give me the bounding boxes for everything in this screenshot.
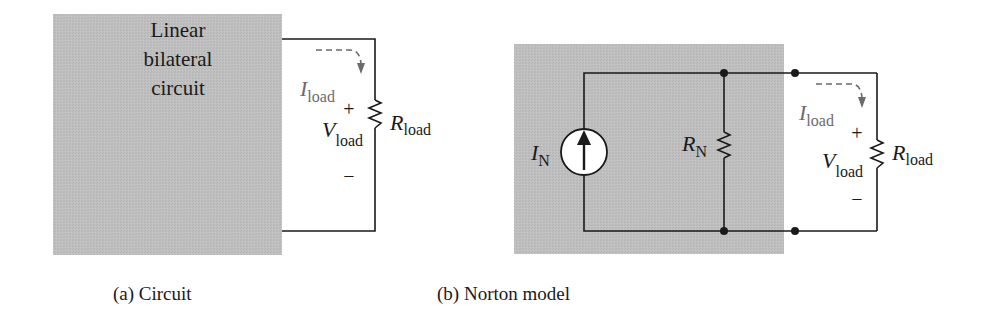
voltage-label-b: Vload bbox=[822, 148, 863, 180]
current-direction-arrow-icon bbox=[816, 84, 862, 98]
resistor-label-a: Rload bbox=[389, 110, 431, 138]
box-label-line: Linear bbox=[113, 16, 243, 45]
load-resistor-icon bbox=[871, 140, 883, 168]
caption-a: (a) Circuit bbox=[113, 283, 192, 305]
current-arrowhead-icon bbox=[357, 63, 365, 74]
current-label-b: Iload bbox=[798, 100, 834, 129]
node-dot bbox=[791, 69, 799, 77]
current-arrowhead-icon bbox=[858, 97, 866, 108]
plus-sign-b: + bbox=[851, 122, 862, 144]
norton-equivalent-box bbox=[514, 44, 784, 254]
plus-sign-a: + bbox=[343, 98, 354, 120]
node-dot bbox=[791, 227, 799, 235]
box-label-line: bilateral bbox=[113, 45, 243, 74]
box-label-line: circuit bbox=[113, 74, 243, 103]
current-direction-arrow-icon bbox=[316, 50, 361, 64]
load-resistor-icon bbox=[369, 100, 381, 128]
circuit-box-label: Linear bilateral circuit bbox=[113, 16, 243, 103]
voltage-label-a: Vload bbox=[322, 117, 363, 149]
minus-sign-b: − bbox=[851, 188, 862, 210]
node-dot bbox=[720, 227, 728, 235]
current-label-a: Iload bbox=[299, 76, 335, 105]
node-dot bbox=[720, 69, 728, 77]
minus-sign-a: − bbox=[343, 165, 354, 187]
resistor-label-b: Rload bbox=[891, 140, 933, 168]
caption-b: (b) Norton model bbox=[437, 283, 570, 305]
